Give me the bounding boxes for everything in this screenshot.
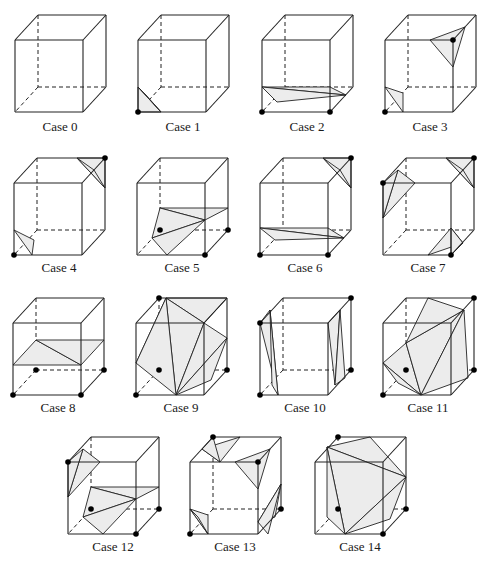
case-label: Case 13: [185, 539, 285, 555]
case-label: Case 10: [255, 400, 355, 416]
marked-vertex-dot: [88, 506, 94, 512]
marked-vertex-dot: [224, 367, 230, 373]
marked-vertex-dot: [210, 434, 216, 440]
marked-vertex-dot: [255, 459, 261, 465]
marked-vertex-dot: [10, 392, 16, 398]
marked-vertex-dot: [101, 367, 107, 373]
cube-case-2: [259, 15, 353, 115]
marked-vertex-dot: [327, 109, 333, 115]
marked-vertex-dot: [448, 252, 454, 258]
case-label: Case 1: [133, 119, 233, 135]
marked-vertex-dot: [11, 252, 17, 258]
case-label: Case 2: [257, 119, 357, 135]
marked-vertex-dot: [102, 155, 108, 161]
cube-case-0: [15, 15, 106, 112]
case-label: Case 3: [380, 119, 480, 135]
marked-vertex-dot: [202, 252, 208, 258]
marked-vertex-dot: [157, 227, 163, 233]
case-label: Case 5: [132, 260, 232, 276]
cube-case-6: [257, 155, 354, 258]
case-label: Case 7: [378, 260, 478, 276]
marked-vertex-dot: [65, 459, 71, 465]
case-label: Case 0: [10, 119, 110, 135]
isosurface-triangle: [385, 87, 403, 112]
cube-edge: [205, 230, 228, 255]
cubes-canvas: [0, 0, 490, 564]
marked-vertex-dot: [156, 295, 162, 301]
marked-vertex-dot: [348, 295, 354, 301]
isosurface-triangle: [451, 228, 463, 255]
cube-edge: [14, 158, 37, 183]
marked-vertex-dot: [78, 392, 84, 398]
cube-edge: [138, 15, 161, 40]
marked-vertex-dot: [133, 531, 139, 537]
marked-vertex-dot: [348, 367, 354, 373]
cube-case-4: [11, 155, 108, 258]
cube-edge: [206, 15, 229, 40]
cube-edge: [383, 298, 406, 323]
cube-edge: [205, 158, 228, 183]
marked-vertex-dot: [450, 37, 456, 43]
marked-vertex-dot: [156, 506, 162, 512]
marked-vertex-dot: [257, 320, 263, 326]
case-label: Case 8: [8, 400, 108, 416]
cube-edge: [453, 87, 476, 112]
cube-edge: [83, 15, 106, 40]
cube-edge: [383, 437, 406, 462]
marked-vertex-dot: [403, 367, 409, 373]
marked-vertex-dot: [135, 109, 141, 115]
marked-vertex-dot: [257, 392, 263, 398]
marked-vertex-dot: [259, 109, 265, 115]
marked-vertex-dot: [382, 109, 388, 115]
marked-vertex-dot: [325, 252, 331, 258]
cube-hidden-edge: [15, 87, 38, 112]
marked-vertex-dot: [403, 506, 409, 512]
case-label: Case 4: [9, 260, 109, 276]
cube-edge: [136, 509, 159, 534]
marked-vertex-dot: [471, 295, 477, 301]
case-label: Case 6: [255, 260, 355, 276]
marked-vertex-dot: [133, 392, 139, 398]
marked-vertex-dot: [156, 367, 162, 373]
marching-cubes-figure: Case 0Case 1Case 2Case 3Case 4Case 5Case…: [0, 0, 490, 564]
cube-case-5: [137, 158, 231, 258]
marked-vertex-dot: [257, 252, 263, 258]
cube-case-11: [380, 295, 477, 398]
cube-edge: [330, 15, 353, 40]
cube-edge: [260, 298, 283, 323]
marked-vertex-dot: [380, 392, 386, 398]
cube-edge: [137, 158, 160, 183]
cube-case-12: [65, 437, 162, 537]
cube-edge: [13, 298, 36, 323]
cube-case-7: [380, 155, 477, 258]
cube-edge: [83, 87, 106, 112]
marked-vertex-dot: [471, 155, 477, 161]
cube-case-3: [382, 15, 476, 115]
cube-case-13: [187, 434, 284, 537]
cube-edge: [206, 87, 229, 112]
case-label: Case 9: [131, 400, 231, 416]
marked-vertex-dot: [348, 155, 354, 161]
cube-edge: [258, 437, 281, 462]
marked-vertex-dot: [187, 531, 193, 537]
marked-vertex-dot: [380, 180, 386, 186]
cube-case-10: [257, 295, 354, 398]
cube-case-8: [10, 298, 107, 398]
marked-vertex-dot: [335, 434, 341, 440]
cube-edge: [262, 15, 285, 40]
cube-edge: [81, 298, 104, 323]
cube-case-1: [135, 15, 229, 115]
case-label: Case 12: [63, 539, 163, 555]
cube-edge: [82, 230, 105, 255]
cube-case-9: [133, 295, 230, 398]
case-label: Case 14: [310, 539, 410, 555]
marked-vertex-dot: [335, 506, 341, 512]
marked-vertex-dot: [225, 227, 231, 233]
cube-edge: [81, 370, 104, 395]
cube-edge: [136, 298, 159, 323]
marked-vertex-dot: [471, 367, 477, 373]
case-label: Case 11: [378, 400, 478, 416]
marked-vertex-dot: [380, 531, 386, 537]
cube-edge: [260, 158, 283, 183]
marked-vertex-dot: [33, 367, 39, 373]
